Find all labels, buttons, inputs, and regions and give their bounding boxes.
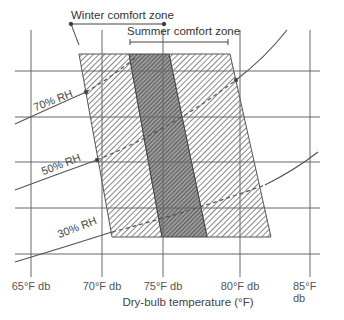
x-tick-80: 80°F db [221, 280, 260, 292]
winter-zone-label: Winter comfort zone [71, 9, 174, 21]
x-tick-85: 85°F db [293, 280, 327, 304]
x-tick-75: 75°F db [144, 280, 183, 292]
x-tick-65: 65°F db [12, 280, 51, 292]
summer-zone-bracket [130, 39, 228, 45]
x-axis-title: Dry-bulb temperature (°F) [122, 296, 253, 308]
summer-zone-label: Summer comfort zone [127, 25, 240, 37]
x-tick-70: 70°F db [83, 280, 122, 292]
